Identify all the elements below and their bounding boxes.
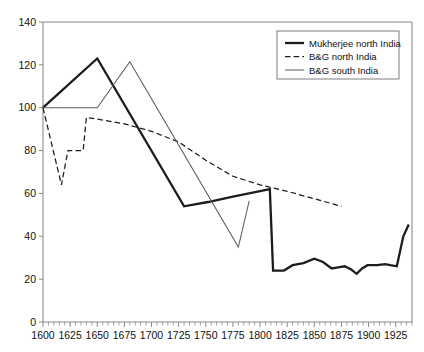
x-tick-label: 1875	[330, 329, 354, 341]
legend-label-1: Mukherjee north India	[309, 38, 402, 49]
x-tick-label: 1675	[113, 329, 137, 341]
x-tick-label: 1775	[221, 329, 245, 341]
x-tick-label: 1850	[303, 329, 327, 341]
x-tick-label: 1725	[167, 329, 191, 341]
line-chart: 020406080100120140 160016251650167517001…	[0, 0, 424, 352]
y-tick-label: 40	[24, 230, 36, 242]
y-tick-label: 60	[24, 187, 36, 199]
chart-legend: Mukherjee north IndiaB&G north IndiaB&G …	[277, 31, 402, 79]
x-tick-label: 1750	[194, 329, 218, 341]
x-tick-label: 1625	[58, 329, 82, 341]
x-tick-label: 1825	[276, 329, 300, 341]
x-tick-label: 1925	[384, 329, 408, 341]
x-tick-label: 1600	[31, 329, 55, 341]
x-tick-label: 1900	[357, 329, 381, 341]
legend-label-2: B&G north India	[309, 51, 377, 62]
legend-label-3: B&G south India	[309, 65, 379, 76]
y-tick-label: 140	[18, 16, 36, 28]
x-tick-label: 1700	[140, 329, 164, 341]
x-tick-label: 1650	[86, 329, 110, 341]
y-tick-label: 20	[24, 273, 36, 285]
y-tick-label: 100	[18, 101, 36, 113]
chart-container: 020406080100120140 160016251650167517001…	[0, 0, 424, 352]
y-tick-label: 80	[24, 144, 36, 156]
x-tick-label: 1800	[248, 329, 272, 341]
y-tick-label: 120	[18, 59, 36, 71]
y-tick-label: 0	[30, 316, 36, 328]
